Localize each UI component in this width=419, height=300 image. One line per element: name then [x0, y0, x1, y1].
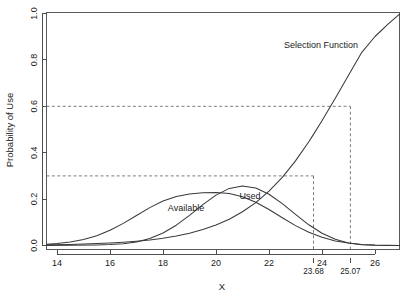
x-tick-label-26: 26: [370, 258, 380, 268]
y-axis-title: Probability of Use: [4, 93, 15, 167]
used-density-curve: [47, 186, 400, 246]
available-density-curve: [47, 192, 400, 245]
x-tick-label-18: 18: [158, 258, 168, 268]
x-annotation-low: 23.68: [303, 267, 324, 276]
x-tick-labels: 14 16 18 20 22 24 26: [52, 258, 380, 268]
curve-label-used: Used: [239, 191, 260, 201]
x-axis-title: X: [219, 281, 226, 292]
y-tick-label-2: 0.4: [29, 146, 39, 159]
y-tick-labels: 0.0 0.2 0.4 0.6 0.8 1.0: [29, 7, 39, 252]
y-tick-label-0: 0.0: [29, 239, 39, 252]
y-tick-label-5: 1.0: [29, 7, 39, 20]
x-axis-ticks: [57, 250, 375, 255]
reference-lines: [47, 106, 351, 249]
x-tick-label-20: 20: [211, 258, 221, 268]
selection-function-chart: 0.0 0.2 0.4 0.6 0.8 1.0 Probability of U…: [0, 0, 419, 300]
x-annotation-high: 25.07: [340, 267, 361, 276]
x-tick-label-16: 16: [105, 258, 115, 268]
curve-label-selection-function: Selection Function: [284, 40, 358, 50]
curve-label-available: Available: [168, 203, 204, 213]
y-tick-label-3: 0.6: [29, 100, 39, 113]
chart-page: 0.0 0.2 0.4 0.6 0.8 1.0 Probability of U…: [0, 0, 419, 300]
x-tick-label-14: 14: [52, 258, 62, 268]
y-tick-label-4: 0.8: [29, 54, 39, 67]
y-tick-label-1: 0.2: [29, 193, 39, 206]
x-tick-label-22: 22: [264, 258, 274, 268]
